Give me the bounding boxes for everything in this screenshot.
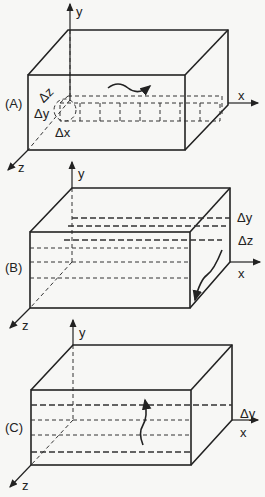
svg-text:(B): (B) (5, 260, 22, 275)
svg-text:y: y (79, 325, 86, 340)
svg-text:Δz: Δz (35, 84, 56, 105)
panel-b: y x z (B) Δy Δz (5, 162, 260, 333)
svg-text:Δz: Δz (238, 233, 253, 248)
svg-text:Δy: Δy (34, 106, 50, 121)
panel-a: y x z (A) Δz Δy Δx (5, 4, 258, 175)
svg-text:z: z (22, 318, 29, 333)
svg-text:(C): (C) (5, 420, 23, 435)
diagram: y x z (A) Δz Δy Δx y x z (0, 0, 265, 497)
z-axis-label: z (18, 160, 25, 175)
svg-text:x: x (240, 425, 247, 440)
svg-text:Δy: Δy (240, 406, 256, 421)
x-axis-label: x (238, 88, 245, 103)
svg-text:z: z (22, 478, 29, 493)
y-axis-label: y (76, 4, 83, 19)
panel-c: y x z (C) Δy (5, 320, 258, 493)
svg-text:Δx: Δx (55, 125, 71, 140)
svg-text:y: y (78, 166, 85, 181)
panel-label: (A) (5, 96, 22, 111)
svg-text:x: x (238, 266, 245, 281)
svg-text:Δy: Δy (237, 210, 253, 225)
